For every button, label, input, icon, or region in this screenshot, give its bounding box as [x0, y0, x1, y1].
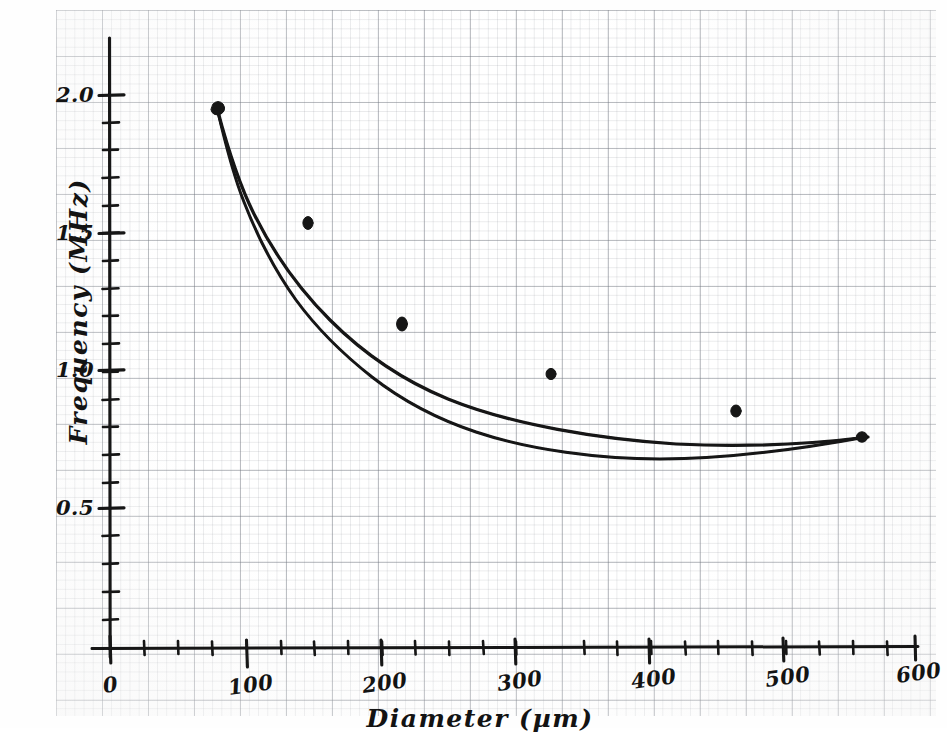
data-point — [856, 432, 867, 442]
data-point-group — [211, 102, 868, 443]
y-tick-label-0-5: 0.5 — [56, 495, 94, 520]
fitted-curve — [218, 110, 867, 459]
y-major-ticks — [99, 95, 124, 509]
data-point — [397, 317, 408, 331]
data-point — [303, 217, 313, 230]
x-tick-label-0: 0 — [101, 671, 119, 698]
x-axis-title: Diameter (µm) — [330, 704, 630, 733]
x-axis-line — [92, 647, 918, 649]
data-point — [546, 368, 556, 379]
y-tick-label-2-0: 2.0 — [56, 82, 94, 107]
data-point — [731, 405, 741, 417]
data-point — [211, 102, 225, 115]
y-axis-title: Frequency (MHz) — [64, 185, 93, 445]
fitted-curve-main — [218, 110, 869, 445]
